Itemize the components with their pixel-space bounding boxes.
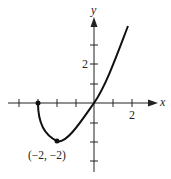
y-tick-label-2: 2 [82, 57, 88, 71]
x-axis-arrow-icon [148, 100, 158, 107]
minimum-point-label: (−2, −2) [28, 149, 66, 162]
x-tick-label-2: 2 [129, 108, 135, 122]
function-curve [38, 26, 128, 141]
minimum-point-dot [55, 139, 60, 144]
y-axis-arrow-icon [91, 17, 98, 27]
function-graph: y x 2 2 (−2, −2) [0, 0, 171, 179]
y-axis-label: y [90, 3, 97, 17]
endpoint-dot [36, 101, 41, 106]
x-axis-label: x [159, 95, 166, 109]
